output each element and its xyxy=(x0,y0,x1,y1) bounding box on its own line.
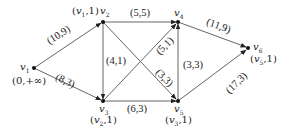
node-v4-name: v4 xyxy=(174,8,183,20)
node-v1-name: v1 xyxy=(20,62,29,74)
node-v6-mark: (v5,1) xyxy=(250,54,277,66)
node-v4 xyxy=(176,20,180,24)
node-v1 xyxy=(32,66,36,70)
flow-network-diagram: v1 (0,+∞) (v1,1) v2 v3 (v2,1) v4 v5 (v3,… xyxy=(0,0,284,132)
node-v5-mark: (v3,1) xyxy=(165,115,192,127)
node-v2 xyxy=(101,20,105,24)
edge-label-v2-v4: (5,5) xyxy=(130,8,150,19)
node-v3-mark: (v2,1) xyxy=(90,115,117,127)
node-v6 xyxy=(246,46,250,50)
edge-label-v3-v5: (6,3) xyxy=(127,104,147,115)
edge-label-v5-v4: (3,3) xyxy=(183,60,203,71)
node-v2-mark: (v1,1) xyxy=(72,6,99,18)
node-v2-name: v2 xyxy=(100,6,109,18)
node-v1-mark: (0,+∞) xyxy=(12,76,46,86)
edge-label-v2-v3: (4,1) xyxy=(106,56,126,67)
